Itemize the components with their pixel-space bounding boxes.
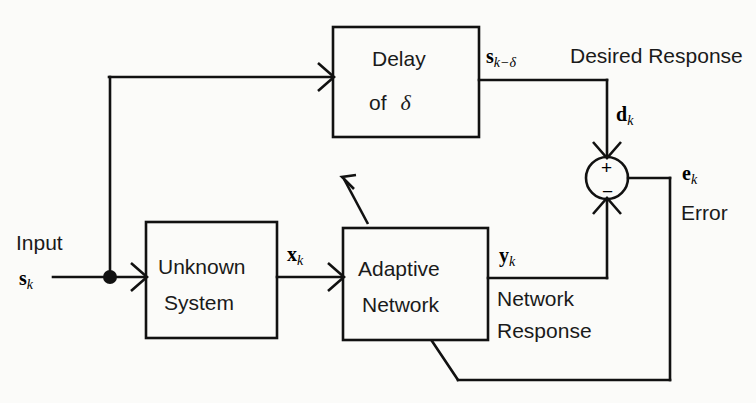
unknown-system-label-line2: System xyxy=(164,292,234,313)
adaptive-network-label-line2: Network xyxy=(362,294,439,315)
adaptive-network-block-outline xyxy=(343,228,488,340)
desired-signal-label: dk xyxy=(616,104,633,128)
network-response-caption-line1: Network xyxy=(497,288,574,309)
delay-block-label-line2: ofδ xyxy=(369,92,411,114)
delayed-signal-label: sk−δ xyxy=(486,46,516,70)
unknown-system-block-outline xyxy=(146,222,277,338)
network-output-label: yk xyxy=(499,245,515,269)
unknown-system-label-line1: Unknown xyxy=(158,256,246,277)
delta-symbol: δ xyxy=(401,90,411,115)
delayed-signal-base: s xyxy=(486,45,494,67)
network-response-caption-line2: Response xyxy=(497,320,592,341)
delay-of-text: of xyxy=(369,91,387,114)
input-signal-label: sk xyxy=(19,268,33,292)
delay-block-label-line1: Delay xyxy=(372,48,426,69)
y-signal-subscript: k xyxy=(509,254,515,269)
adaptive-network-label-line1: Adaptive xyxy=(358,258,440,279)
unknown-system-output-label: xk xyxy=(287,244,303,268)
input-signal-subscript: k xyxy=(27,277,33,292)
input-signal-base: s xyxy=(19,267,27,289)
x-signal-base: x xyxy=(287,243,297,265)
summer-minus-sign: − xyxy=(602,182,613,201)
x-signal-subscript: k xyxy=(297,253,303,268)
error-signal-base: e xyxy=(682,162,691,184)
desired-response-caption: Desired Response xyxy=(570,45,743,66)
delay-block-outline xyxy=(333,27,479,137)
wire-e-diagonal-to-adaptive xyxy=(432,341,458,380)
delayed-signal-subscript: k−δ xyxy=(494,55,516,70)
desired-signal-subscript: k xyxy=(627,113,633,128)
input-caption: Input xyxy=(16,232,63,253)
summer-plus-sign: + xyxy=(601,158,612,177)
signal-tap-dot xyxy=(103,270,117,284)
error-signal-subscript: k xyxy=(691,172,697,187)
y-signal-base: y xyxy=(499,244,509,266)
block-diagram-figure: Delay ofδ sk−δ Desired Response dk + − e… xyxy=(0,0,756,403)
wire-adaptation-diagonal xyxy=(344,179,368,224)
desired-signal-base: d xyxy=(616,103,627,125)
error-signal-label: ek xyxy=(682,163,697,187)
error-caption: Error xyxy=(681,202,728,223)
